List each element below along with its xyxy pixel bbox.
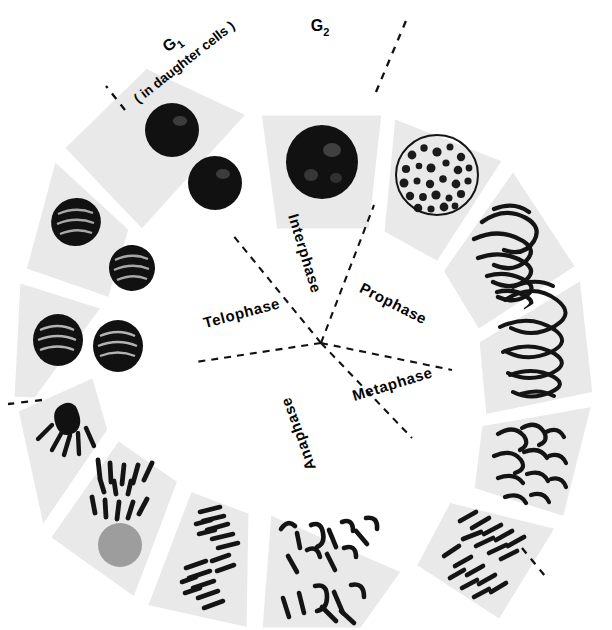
divider-ext-top-right	[376, 16, 408, 92]
label-anaphase: Anaphase	[277, 395, 319, 473]
cell-cycle-wheel: Interphase Prophase Metaphase Anaphase T…	[0, 0, 612, 630]
wedge-metaphase	[414, 500, 558, 622]
label-telophase: Telophase	[201, 294, 281, 331]
label-prophase: Prophase	[357, 279, 430, 327]
label-g2-group: G2	[311, 17, 330, 38]
outer-labels: G2 G1 ( in daughter cells )	[116, 0, 329, 106]
wedge-prometaphase	[472, 404, 594, 519]
label-metaphase: Metaphase	[350, 363, 434, 404]
center-phase-labels: Interphase Prophase Metaphase Anaphase T…	[201, 212, 434, 473]
wedge-interphase-g2	[259, 113, 384, 231]
divider-anaphase-telophase	[196, 343, 321, 362]
figure-canvas: Interphase Prophase Metaphase Anaphase T…	[0, 0, 612, 630]
label-g2: G2	[311, 17, 330, 38]
divider-prophase-metaphase	[321, 343, 452, 370]
wedge-ring	[12, 66, 595, 630]
wedge-early-anaphase	[260, 512, 404, 630]
